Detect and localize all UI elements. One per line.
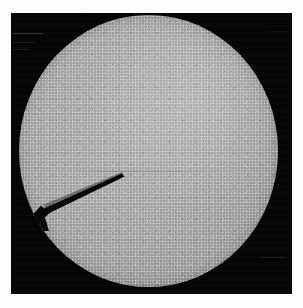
specimen-vignette (19, 15, 278, 287)
specimen-grain-coarse (19, 15, 278, 287)
figure-page (0, 0, 303, 308)
specimen-grain-medium (19, 15, 278, 287)
specimen-seam (60, 171, 241, 172)
specimen-disc-body (19, 15, 278, 287)
specimen-grain-fine (19, 15, 278, 287)
specimen-disc (19, 15, 278, 287)
specimen-grain-streaks (19, 15, 278, 287)
image-frame (11, 13, 292, 294)
specimen-sheen (19, 15, 278, 287)
figure-caption (11, 296, 292, 306)
